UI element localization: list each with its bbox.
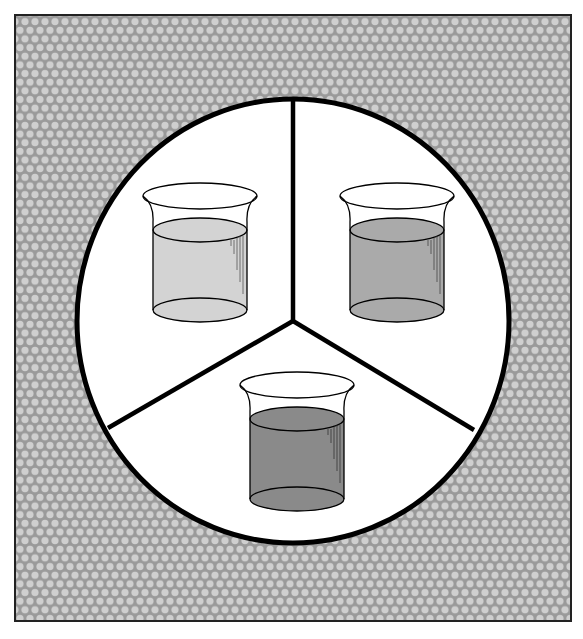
figure-canvas [0, 0, 583, 639]
